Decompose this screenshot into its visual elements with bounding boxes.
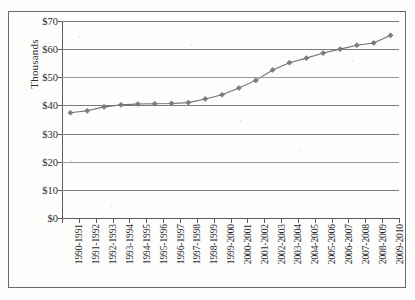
- series-markers: [68, 33, 393, 116]
- gridline: [62, 77, 399, 78]
- data-point-marker: [354, 43, 359, 48]
- x-axis-tick-mark: [348, 219, 349, 223]
- series-line: [70, 35, 390, 112]
- x-axis-tick-label: 1992-1993: [108, 224, 118, 284]
- scan-speckle: [352, 60, 354, 62]
- x-axis-tick-mark: [332, 219, 333, 223]
- x-axis-tick-label: 1993-1994: [125, 224, 135, 284]
- y-axis-tick-label: $10: [24, 184, 58, 195]
- x-axis-tick-mark: [315, 219, 316, 223]
- x-axis-tick-label: 1996-1997: [176, 224, 186, 284]
- gridline: [62, 134, 399, 135]
- x-axis-tick-label: 2002-2003: [277, 224, 287, 284]
- gridline: [62, 49, 399, 50]
- x-axis-tick-mark: [214, 219, 215, 223]
- data-point-marker: [388, 33, 393, 38]
- x-axis-tick-label: 2008-2009: [378, 224, 388, 284]
- y-axis-tick-label: $0: [24, 213, 58, 224]
- data-point-marker: [186, 100, 191, 105]
- data-point-marker: [287, 60, 292, 65]
- data-series-svg: [62, 21, 399, 218]
- x-axis-tick-mark: [231, 219, 232, 223]
- data-point-marker: [304, 56, 309, 61]
- x-axis-tick-mark: [365, 219, 366, 223]
- x-axis-tick-label: 1991-1992: [91, 224, 101, 284]
- data-point-marker: [371, 40, 376, 45]
- x-axis-tick-mark: [180, 219, 181, 223]
- x-axis-tick-label: 2005-2006: [327, 224, 337, 284]
- x-axis-tick-labels: 1990-19911991-19921992-19931993-19941994…: [62, 224, 400, 296]
- x-axis-tick-label: 2004-2005: [310, 224, 320, 284]
- x-axis-tick-mark: [146, 219, 147, 223]
- x-axis-tick-label: 1999-2000: [226, 224, 236, 284]
- data-point-marker: [253, 78, 258, 83]
- x-axis-tick-label: 1997-1998: [192, 224, 202, 284]
- x-axis-tick-label: 1998-1999: [209, 224, 219, 284]
- data-point-marker: [219, 92, 224, 97]
- y-axis-tick-label: $50: [24, 72, 58, 83]
- plot-area: [62, 21, 399, 218]
- scan-speckle: [110, 205, 112, 207]
- x-axis-tick-mark: [197, 219, 198, 223]
- y-axis-tick-label: $30: [24, 128, 58, 139]
- data-point-marker: [203, 96, 208, 101]
- x-axis-tick-mark: [399, 219, 400, 223]
- x-axis-tick-mark: [264, 219, 265, 223]
- scan-speckle: [78, 36, 80, 38]
- x-axis-tick-label: 1995-1996: [159, 224, 169, 284]
- data-point-marker: [85, 108, 90, 113]
- data-point-marker: [236, 85, 241, 90]
- x-axis-tick-mark: [62, 219, 63, 223]
- y-axis-tick-label: $40: [24, 100, 58, 111]
- chart-figure: Thousands $0$10$20$30$40$50$60$70 1990-1…: [0, 0, 415, 300]
- y-axis-tick-label: $70: [24, 16, 58, 27]
- x-axis-tick-mark: [247, 219, 248, 223]
- data-point-marker: [321, 50, 326, 55]
- x-axis-tick-label: 1994-1995: [142, 224, 152, 284]
- scan-speckle: [300, 150, 302, 152]
- gridline: [62, 105, 399, 106]
- y-axis-tick-label: $60: [24, 44, 58, 55]
- gridline: [62, 190, 399, 191]
- y-axis-tick-label: $20: [24, 156, 58, 167]
- x-axis-tick-mark: [129, 219, 130, 223]
- y-axis-tick-labels: $0$10$20$30$40$50$60$70: [22, 21, 58, 219]
- data-point-marker: [270, 67, 275, 72]
- x-axis-tick-mark: [79, 219, 80, 223]
- x-axis-tick-mark: [163, 219, 164, 223]
- gridline: [62, 162, 399, 163]
- x-axis-tick-label: 1990-1991: [74, 224, 84, 284]
- data-point-marker: [68, 110, 73, 115]
- scan-speckle: [70, 160, 72, 162]
- x-axis-tick-label: 2003-2004: [293, 224, 303, 284]
- x-axis-tick-mark: [281, 219, 282, 223]
- scan-speckle: [240, 120, 242, 122]
- x-axis-tick-label: 2007-2008: [361, 224, 371, 284]
- scan-speckle: [190, 44, 192, 46]
- x-axis-tick-label: 2006-2007: [344, 224, 354, 284]
- x-axis-tick-label: 2000-2001: [243, 224, 253, 284]
- x-axis-tick-mark: [298, 219, 299, 223]
- x-axis-tick-label: 2001-2002: [260, 224, 270, 284]
- x-axis-tick-mark: [382, 219, 383, 223]
- x-axis-tick-label: 2009-2010: [395, 224, 405, 284]
- gridline: [62, 21, 399, 22]
- x-axis-tick-mark: [96, 219, 97, 223]
- x-axis-tick-mark: [113, 219, 114, 223]
